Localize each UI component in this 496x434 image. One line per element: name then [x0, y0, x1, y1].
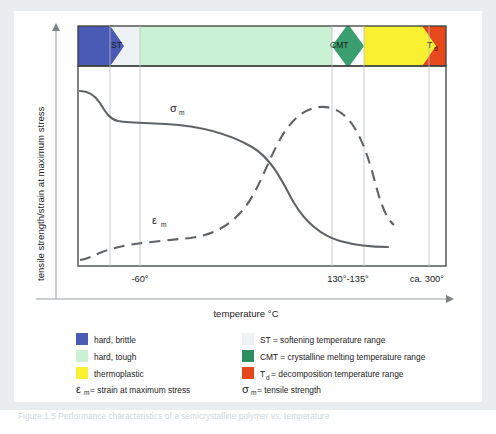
x-axis-label: temperature °C — [213, 308, 278, 319]
svg-text:= decomposition temperature ra: = decomposition temperature range — [271, 369, 404, 379]
svg-text:T: T — [427, 40, 433, 50]
legend-swatch-hard-tough — [76, 350, 88, 362]
legend-footer-epsilon: ε m = strain at maximum stress — [76, 383, 190, 396]
xtick-label-0: -60° — [131, 274, 148, 284]
legend-footer-sigma: σ m = tensile strength — [242, 383, 321, 396]
legend-label-hard-brittle: hard, brittle — [94, 335, 136, 345]
epsilon-subscript: m — [161, 221, 167, 228]
legend-swatch-thermoplastic — [76, 367, 88, 379]
figure-frame: ST CMT T d σ m — [0, 0, 496, 434]
xtick-label-1: 130°-135° — [327, 274, 369, 284]
band-cmt-clip-bottom — [326, 66, 370, 72]
chart-area: ST CMT T d σ m — [14, 11, 482, 402]
curve-epsilon-m — [80, 107, 394, 260]
footer-epsilon-text: = strain at maximum stress — [90, 385, 190, 395]
curve-label-sigma-m: σ m — [170, 102, 185, 116]
legend-label-td: T d = decomposition temperature range — [260, 369, 404, 381]
x-axis-arrow — [36, 295, 454, 303]
epsilon-symbol: ε — [152, 214, 157, 226]
band-label-cmt: CMT — [330, 40, 349, 50]
figure-caption: Figure 1.5 Performance characteristics o… — [18, 412, 488, 421]
plot-frame — [78, 66, 446, 266]
chart-svg: ST CMT T d σ m — [14, 11, 482, 402]
svg-text:T: T — [260, 369, 265, 379]
legend-item-hard-brittle: hard, brittle — [76, 333, 136, 345]
svg-text:d: d — [434, 45, 438, 52]
figure-caption-strip: Figure 1.5 Performance characteristics o… — [0, 410, 496, 434]
y-axis-label: tensile strength/strain at maximum stres… — [35, 106, 46, 281]
band-label-st: ST — [111, 40, 123, 50]
footer-sigma-text: = tensile strength — [257, 385, 321, 395]
legend-item-st: ST = softening temperature range — [242, 333, 386, 345]
footer-epsilon-symbol: ε — [76, 383, 81, 395]
legend-label-cmt: CMT = crystalline melting temperature ra… — [260, 352, 426, 362]
legend-label-hard-tough: hard, tough — [94, 352, 137, 362]
legend-label-thermoplastic: thermoplastic — [94, 369, 144, 379]
legend-swatch-st — [242, 333, 254, 345]
sigma-subscript: m — [179, 109, 185, 116]
legend-label-st: ST = softening temperature range — [260, 335, 386, 345]
legend-item-hard-tough: hard, tough — [76, 350, 137, 362]
footer-sigma-symbol: σ — [242, 383, 249, 395]
legend-swatch-cmt — [242, 350, 254, 362]
band-cmt-clip-top — [326, 20, 370, 26]
legend-item-cmt: CMT = crystalline melting temperature ra… — [242, 350, 426, 362]
svg-text:d: d — [266, 374, 270, 381]
band-hard-tough — [140, 26, 332, 66]
legend-item-thermoplastic: thermoplastic — [76, 367, 144, 379]
sigma-symbol: σ — [170, 102, 177, 114]
legend-item-td: T d = decomposition temperature range — [242, 367, 404, 381]
legend-swatch-hard-brittle — [76, 333, 88, 345]
temperature-band-bar — [78, 20, 446, 72]
curve-label-epsilon-m: ε m — [152, 214, 167, 228]
xtick-label-2: ca. 300° — [410, 274, 444, 284]
y-axis-arrow — [52, 23, 60, 299]
legend-swatch-td — [242, 367, 254, 379]
legend: hard, brittle hard, tough thermoplastic … — [76, 333, 426, 396]
